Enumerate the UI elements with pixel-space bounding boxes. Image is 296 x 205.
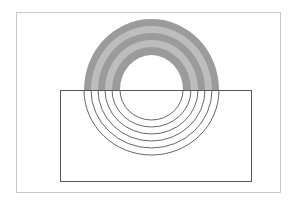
upper-shaded-bands <box>84 19 219 90</box>
concentric-arc <box>91 90 212 148</box>
concentric-arc <box>84 90 219 155</box>
inner-rectangle <box>61 91 252 182</box>
concentric-arc <box>112 90 191 127</box>
lower-concentric-arcs <box>84 90 219 155</box>
concentric-arc <box>120 90 183 120</box>
diagram-canvas <box>0 0 296 205</box>
